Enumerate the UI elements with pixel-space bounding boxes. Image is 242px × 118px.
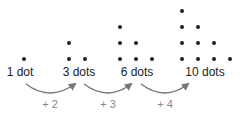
dot (22, 57, 26, 61)
dot (67, 57, 71, 61)
group-label-6: 6 dots (121, 65, 154, 79)
group-label-3: 3 dots (63, 65, 96, 79)
dot (118, 57, 122, 61)
dot (134, 57, 138, 61)
dot (180, 57, 184, 61)
step-label-3: + 3 (100, 98, 116, 110)
dot (196, 57, 200, 61)
step-label-4: + 4 (157, 98, 173, 110)
dot (228, 57, 232, 61)
arrow-icon (84, 84, 131, 93)
triangular-numbers-diagram: 1 dot 3 dots 6 dots 10 dots + 2 + 3 + 4 (0, 0, 242, 118)
dot (180, 41, 184, 45)
dot (196, 41, 200, 45)
group-label-10: 10 dots (185, 65, 224, 79)
arrow-icon (26, 84, 75, 93)
dot (118, 41, 122, 45)
dot (212, 57, 216, 61)
dot-groups (22, 9, 232, 61)
arrow-icon (141, 84, 188, 93)
dot (118, 25, 122, 29)
dot (212, 41, 216, 45)
dot (196, 25, 200, 29)
group-label-1: 1 dot (7, 65, 34, 79)
dot (180, 9, 184, 13)
dot (83, 57, 87, 61)
dot (67, 41, 71, 45)
step-label-2: + 2 (42, 98, 58, 110)
dot (150, 57, 154, 61)
dot (134, 41, 138, 45)
dot (180, 25, 184, 29)
